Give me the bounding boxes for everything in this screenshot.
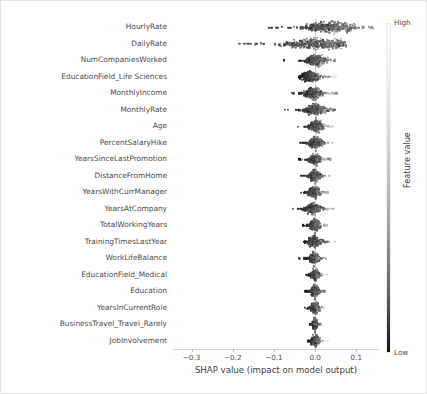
y-axis-tick-label: YearsWithCurrManager <box>83 189 167 196</box>
x-axis-tick-label: 0.0 <box>309 353 320 362</box>
beeswarm-row <box>173 168 379 185</box>
y-axis-tick-label: BusinessTravel_Travel_Rarely <box>60 321 167 328</box>
beeswarm-point <box>316 164 318 166</box>
beeswarm-point <box>319 309 321 311</box>
beeswarm-point <box>294 46 296 48</box>
beeswarm-point <box>340 48 342 50</box>
beeswarm-point <box>332 48 334 50</box>
beeswarm-row <box>173 250 379 267</box>
beeswarm-point <box>326 208 328 210</box>
beeswarm-point <box>328 241 330 243</box>
beeswarm-point <box>325 159 327 161</box>
beeswarm-point <box>292 46 294 48</box>
beeswarm-point <box>346 31 348 33</box>
y-axis-tick-label: DistanceFromHome <box>95 172 167 179</box>
beeswarm-point <box>293 92 295 94</box>
beeswarm-row <box>173 69 379 86</box>
beeswarm-row <box>173 267 379 284</box>
beeswarm-row <box>173 283 379 300</box>
y-axis-labels: HourlyRateDailyRateNumCompaniesWorkedEdu… <box>1 1 167 394</box>
beeswarm-point <box>320 64 322 66</box>
beeswarm-point <box>300 59 302 61</box>
beeswarm-row <box>173 19 379 36</box>
beeswarm-point <box>324 175 326 177</box>
y-axis-tick-label: YearsSinceLastPromotion <box>74 156 167 163</box>
beeswarm-row <box>173 36 379 53</box>
x-axis-tick-mark <box>274 349 275 352</box>
y-axis-tick-label: HourlyRate <box>126 24 167 31</box>
x-axis-tick-mark <box>192 349 193 352</box>
beeswarm-point <box>301 158 303 160</box>
beeswarm-point <box>303 47 305 49</box>
beeswarm-point <box>318 342 320 344</box>
y-axis-tick-label: JobInvolvement <box>110 337 167 344</box>
beeswarm-point <box>322 95 324 97</box>
beeswarm-row <box>173 135 379 152</box>
beeswarm-row <box>173 333 379 350</box>
beeswarm-point <box>323 63 325 65</box>
beeswarm-point <box>325 257 327 259</box>
y-axis-tick-label: MonthlyRate <box>120 106 167 113</box>
y-axis-tick-label: Age <box>153 123 167 130</box>
beeswarm-point <box>315 197 317 199</box>
x-axis-label: SHAP value (impact on model output) <box>173 365 379 375</box>
beeswarm-point <box>361 28 363 30</box>
beeswarm-point <box>323 128 325 130</box>
y-axis-tick-label: EducationField_Medical <box>81 271 167 278</box>
x-axis-spine <box>173 349 379 350</box>
beeswarm-point <box>327 340 329 342</box>
beeswarm-point <box>317 112 319 114</box>
beeswarm-point <box>329 126 331 128</box>
x-axis-tick-label: −0.2 <box>224 353 241 362</box>
beeswarm-row <box>173 316 379 333</box>
beeswarm-point <box>328 32 330 34</box>
beeswarm-point <box>292 208 294 210</box>
beeswarm-point <box>316 36 318 38</box>
beeswarm-point <box>335 92 337 94</box>
beeswarm-row <box>173 52 379 69</box>
y-axis-tick-label: PercentSalaryHike <box>100 139 167 146</box>
x-axis-tick-mark <box>356 349 357 352</box>
beeswarm-point <box>334 241 336 243</box>
beeswarm-point <box>315 313 317 315</box>
y-axis-tick-label: TotalWorkingYears <box>100 222 167 229</box>
beeswarm-point <box>317 95 319 97</box>
beeswarm-row <box>173 217 379 234</box>
beeswarm-row <box>173 184 379 201</box>
y-axis-tick-label: DailyRate <box>131 40 167 47</box>
feature-value-colorbar <box>386 23 391 353</box>
beeswarm-point <box>314 213 316 215</box>
beeswarm-point <box>305 28 307 30</box>
beeswarm-row <box>173 300 379 317</box>
beeswarm-point <box>306 23 308 25</box>
beeswarm-point <box>287 109 289 111</box>
plot-area <box>173 19 379 349</box>
beeswarm-point <box>309 245 311 247</box>
y-axis-tick-label: MonthlyIncome <box>110 90 167 97</box>
beeswarm-point <box>328 49 330 51</box>
beeswarm-point <box>315 346 317 348</box>
beeswarm-point <box>250 43 252 45</box>
beeswarm-point <box>320 176 322 178</box>
beeswarm-point <box>340 38 342 40</box>
beeswarm-point <box>349 30 351 32</box>
beeswarm-point <box>316 229 318 231</box>
x-axis-tick-label: 0.1 <box>351 353 362 362</box>
beeswarm-point <box>345 46 347 48</box>
beeswarm-point <box>332 32 334 34</box>
colorbar-low-label: Low <box>394 348 408 357</box>
beeswarm-point <box>326 224 328 226</box>
colorbar-title: Feature value <box>402 132 412 188</box>
beeswarm-row <box>173 201 379 218</box>
x-axis-tick-mark <box>315 349 316 352</box>
beeswarm-point <box>321 54 323 56</box>
colorbar-high-label: High <box>394 18 411 27</box>
y-axis-tick-label: WorkLifeBalance <box>105 255 167 262</box>
beeswarm-point <box>254 43 256 45</box>
beeswarm-row <box>173 151 379 168</box>
x-axis-tick-label: −0.1 <box>265 353 282 362</box>
x-axis-tick-mark <box>233 349 234 352</box>
beeswarm-point <box>315 30 317 32</box>
beeswarm-point <box>284 109 286 111</box>
y-axis-tick-label: YearsInCurrentRole <box>97 304 167 311</box>
